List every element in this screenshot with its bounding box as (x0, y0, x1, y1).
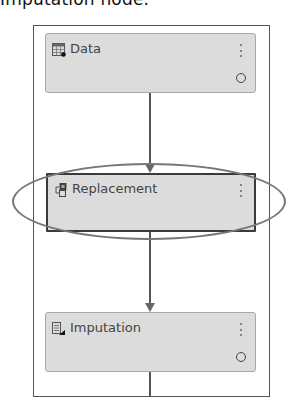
kebab-dot-icon (240, 44, 242, 46)
node-menu-button[interactable] (239, 184, 243, 197)
node-menu-button[interactable] (239, 323, 243, 336)
kebab-dot-icon (240, 329, 242, 331)
kebab-dot-icon (240, 195, 242, 197)
replacement-icon (54, 183, 68, 197)
status-circle-icon (236, 352, 246, 362)
node-replacement[interactable]: Replacement (46, 173, 256, 232)
figure-caption: Imputation node. (0, 0, 149, 9)
kebab-dot-icon (240, 55, 242, 57)
kebab-dot-icon (240, 184, 242, 186)
edge-data-to-replacement (149, 93, 151, 165)
edge-replacement-to-imputation (149, 232, 151, 304)
node-imputation[interactable]: Imputation (45, 312, 256, 372)
arrowhead-icon (145, 164, 155, 173)
kebab-dot-icon (240, 190, 242, 192)
imputation-icon (52, 322, 66, 336)
node-label: Imputation (70, 320, 141, 335)
arrowhead-icon (145, 303, 155, 312)
kebab-dot-icon (240, 50, 242, 52)
node-menu-button[interactable] (239, 44, 243, 57)
kebab-dot-icon (240, 334, 242, 336)
status-circle-icon (236, 73, 246, 83)
node-label: Data (70, 41, 101, 56)
data-table-icon (52, 43, 66, 57)
edge-imputation-out (149, 372, 151, 397)
node-label: Replacement (72, 181, 157, 196)
node-data[interactable]: Data (45, 33, 256, 93)
kebab-dot-icon (240, 323, 242, 325)
